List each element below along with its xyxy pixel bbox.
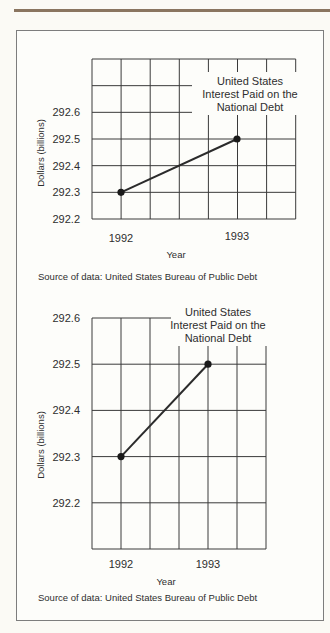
x-axis-label: Year	[156, 576, 175, 587]
y-axis-label: Dollars (billions)	[35, 411, 46, 479]
data-point	[117, 453, 124, 460]
chart-title-line: Interest Paid on the	[170, 319, 265, 331]
y-tick-label: 292.4	[52, 404, 80, 416]
chart-2-narrow-scale: 292.2292.3292.4292.5292.6Dollars (billio…	[0, 0, 330, 633]
y-tick-label: 292.2	[52, 497, 80, 509]
y-tick-label: 292.3	[52, 451, 80, 463]
data-point	[204, 361, 211, 368]
x-tick-label: 1992	[109, 558, 133, 570]
chart-title-line: United States	[185, 306, 252, 318]
chart-title-line: National Debt	[185, 332, 252, 344]
y-tick-label: 292.5	[52, 358, 80, 370]
x-tick-label: 1993	[196, 558, 220, 570]
chart-2-source-note: Source of data: United States Bureau of …	[38, 592, 257, 603]
y-tick-label: 292.6	[52, 312, 80, 324]
